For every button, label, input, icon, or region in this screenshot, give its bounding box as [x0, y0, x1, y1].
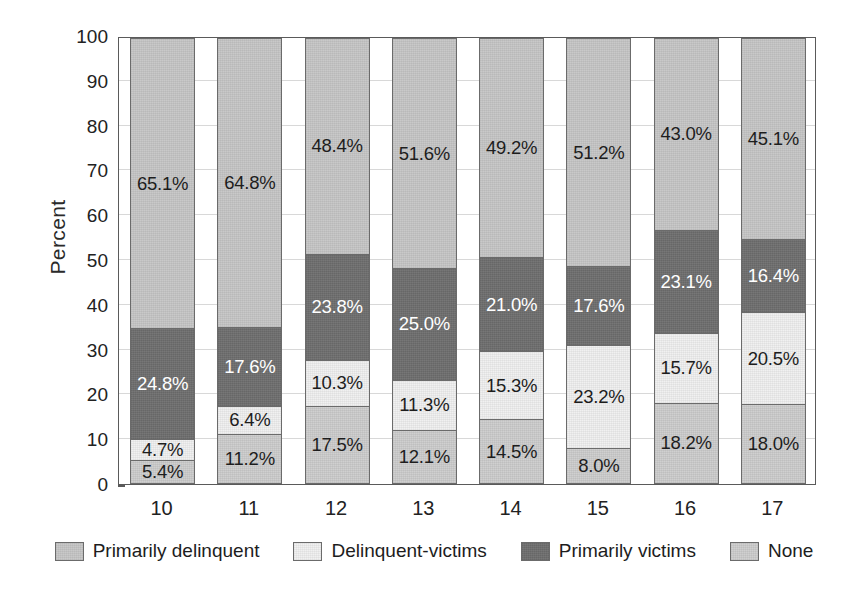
bar-segment: 11.2%: [217, 434, 282, 484]
bar-segment: 6.4%: [217, 406, 282, 435]
bar-segment: 21.0%: [479, 257, 544, 351]
bar-segment: 11.3%: [392, 380, 457, 430]
y-axis-tick-label: 20: [48, 384, 108, 406]
bar-segment-label: 8.0%: [578, 455, 619, 477]
legend-item[interactable]: Primarily delinquent: [55, 540, 260, 562]
chart-figure: Percent 0102030405060708090100 5.4%4.7%2…: [0, 0, 868, 605]
y-axis-tick-label: 40: [48, 295, 108, 317]
bar-segment-label: 16.4%: [748, 265, 799, 287]
bar-segment: 49.2%: [479, 38, 544, 257]
bar-segment-label: 5.4%: [142, 461, 183, 483]
bar-segment-label: 14.5%: [486, 441, 537, 463]
bar-segment: 14.5%: [479, 419, 544, 484]
stacked-bar: 18.2%15.7%23.1%43.0%: [654, 38, 719, 484]
bar-segment-label: 45.1%: [748, 128, 799, 150]
stacked-bar: 14.5%15.3%21.0%49.2%: [479, 38, 544, 484]
bar-segment: 51.2%: [566, 38, 631, 266]
bar-segment-label: 17.6%: [224, 356, 275, 378]
bar-segment-label: 20.5%: [748, 348, 799, 370]
bar-segment-label: 25.0%: [399, 313, 450, 335]
bar-segment: 12.1%: [392, 430, 457, 484]
stacked-bar: 8.0%23.2%17.6%51.2%: [566, 38, 631, 484]
bar-segment: 45.1%: [741, 38, 806, 239]
bar-segment: 8.0%: [566, 448, 631, 484]
bar-segment-label: 10.3%: [311, 372, 362, 394]
bar-segment: 17.6%: [217, 327, 282, 406]
bar-segment: 17.5%: [305, 406, 370, 484]
y-axis-tick-label: 90: [48, 71, 108, 93]
bar-segment-label: 51.2%: [573, 142, 624, 164]
bar-segment-label: 18.0%: [748, 433, 799, 455]
legend-item[interactable]: Delinquent-victims: [293, 540, 486, 562]
y-axis-tick-label: 50: [48, 250, 108, 272]
bar-segment: 16.4%: [741, 239, 806, 312]
y-axis-tick-label: 80: [48, 116, 108, 138]
bar-segment: 5.4%: [130, 460, 195, 484]
bar-segment-label: 12.1%: [399, 446, 450, 468]
stacked-bar: 17.5%10.3%23.8%48.4%: [305, 38, 370, 484]
bar-segment-label: 65.1%: [137, 173, 188, 195]
bar-segment-label: 23.2%: [573, 386, 624, 408]
bar-segment-label: 23.8%: [311, 296, 362, 318]
legend-swatch: [521, 542, 550, 561]
chart-legend: Primarily delinquentDelinquent-victimsPr…: [0, 540, 868, 562]
bar-segment-label: 17.5%: [311, 434, 362, 456]
x-axis-tick-label: 16: [650, 497, 720, 520]
bar-segment-label: 11.3%: [399, 394, 449, 416]
bar-segment: 64.8%: [217, 38, 282, 327]
bar-segment-label: 24.8%: [137, 373, 188, 395]
legend-label: Delinquent-victims: [331, 540, 486, 562]
bar-segment: 18.0%: [741, 404, 806, 484]
legend-label: Primarily victims: [559, 540, 696, 562]
y-axis-tick-label: 100: [48, 26, 108, 48]
bar-segment: 23.1%: [654, 230, 719, 333]
bar-segment-label: 17.6%: [573, 295, 624, 317]
legend-label: None: [768, 540, 813, 562]
x-axis-tick-label: 17: [737, 497, 807, 520]
bar-segment-label: 43.0%: [660, 123, 711, 145]
bar-segment: 43.0%: [654, 38, 719, 230]
x-axis-tick-label: 14: [476, 497, 546, 520]
x-axis-tick-label: 13: [388, 497, 458, 520]
bar-segment: 25.0%: [392, 268, 457, 380]
y-axis-tick-mark: [118, 485, 125, 487]
bar-segment-label: 48.4%: [311, 135, 362, 157]
bar-segment-label: 51.6%: [399, 143, 450, 165]
legend-item[interactable]: None: [730, 540, 813, 562]
bar-segment: 15.7%: [654, 333, 719, 403]
bar-segment: 18.2%: [654, 403, 719, 484]
stacked-bar: 5.4%4.7%24.8%65.1%: [130, 38, 195, 484]
x-axis-tick-label: 15: [563, 497, 633, 520]
bar-segment: 23.2%: [566, 345, 631, 448]
legend-swatch: [293, 542, 322, 561]
y-axis-tick-label: 70: [48, 160, 108, 182]
bar-segment-label: 23.1%: [660, 271, 711, 293]
bar-segment-label: 49.2%: [486, 137, 537, 159]
stacked-bar: 12.1%11.3%25.0%51.6%: [392, 38, 457, 484]
legend-label: Primarily delinquent: [93, 540, 260, 562]
plot-area: 5.4%4.7%24.8%65.1%11.2%6.4%17.6%64.8%17.…: [118, 37, 816, 485]
bar-segment: 10.3%: [305, 360, 370, 406]
legend-swatch: [730, 542, 759, 561]
x-axis-tick-label: 12: [301, 497, 371, 520]
bar-segment: 15.3%: [479, 351, 544, 419]
y-axis-tick-label: 0: [48, 474, 108, 496]
bar-segment: 48.4%: [305, 38, 370, 254]
bar-segment: 23.8%: [305, 254, 370, 360]
bar-segment: 20.5%: [741, 312, 806, 403]
bar-segment: 4.7%: [130, 439, 195, 460]
x-axis-tick-label: 11: [214, 497, 284, 520]
bar-segment: 17.6%: [566, 266, 631, 345]
bar-segment-label: 6.4%: [229, 409, 270, 431]
legend-item[interactable]: Primarily victims: [521, 540, 696, 562]
bar-segment-label: 18.2%: [660, 432, 711, 454]
stacked-bar: 18.0%20.5%16.4%45.1%: [741, 38, 806, 484]
bar-segment-label: 11.2%: [225, 448, 275, 470]
stacked-bar: 11.2%6.4%17.6%64.8%: [217, 38, 282, 484]
y-axis-tick-label: 30: [48, 340, 108, 362]
bar-segment: 51.6%: [392, 38, 457, 268]
y-axis-tick-label: 60: [48, 205, 108, 227]
bar-segment: 65.1%: [130, 38, 195, 328]
legend-swatch: [55, 542, 84, 561]
bar-segment: 24.8%: [130, 328, 195, 439]
